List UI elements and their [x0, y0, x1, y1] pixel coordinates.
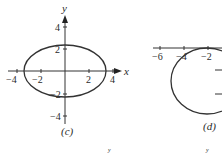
c-xtick-label: 2: [86, 74, 91, 85]
figure: x y −4 −2 2 4 4 2 −2 −4 (c) −6 −4 −2: [0, 0, 222, 154]
panel-c: x y −4 −2 2 4 4 2 −2 −4 (c): [6, 2, 129, 138]
c-xtick-label: −4: [6, 74, 17, 85]
d-xtick-label: −2: [201, 51, 212, 62]
panel-d: −6 −4 −2 (d): [152, 46, 222, 133]
c-x-axis-label: x: [123, 65, 129, 77]
c-ytick-label: 4: [55, 22, 60, 33]
footer-mark: y: [107, 147, 111, 153]
c-xtick-label: 4: [110, 74, 115, 85]
d-xtick-label: −4: [176, 51, 187, 62]
d-xtick-label: −6: [152, 51, 163, 62]
footer-mark: y: [205, 147, 209, 153]
c-panel-label: (c): [61, 125, 74, 138]
c-y-arrow-icon: [62, 15, 68, 23]
c-y-axis-label: y: [61, 2, 67, 14]
c-ytick-label: −4: [50, 111, 61, 122]
c-x-arrow-icon: [114, 68, 122, 74]
d-panel-label: (d): [203, 120, 216, 133]
c-xtick-label: −2: [32, 74, 43, 85]
c-ytick-label: −2: [50, 89, 61, 100]
